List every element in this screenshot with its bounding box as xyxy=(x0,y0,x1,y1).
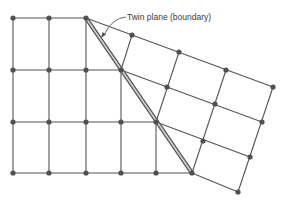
twin-plane-boundary xyxy=(86,18,192,173)
twin-boundary-diagram: Twin plane (boundary) xyxy=(0,0,286,203)
twinned-lattice xyxy=(86,18,273,192)
twin-plane-label: Twin plane (boundary) xyxy=(127,12,211,22)
lattice-nodes xyxy=(10,15,275,194)
annotation-leader xyxy=(101,17,126,38)
